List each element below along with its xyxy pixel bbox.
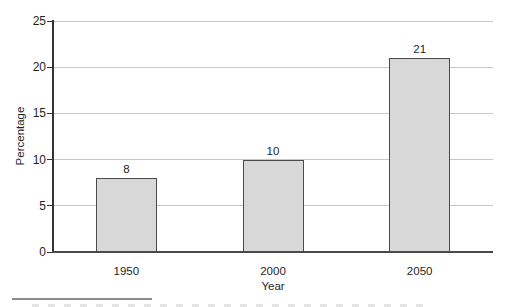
x-axis-title: Year	[243, 280, 303, 292]
x-category-label-1950: 1950	[96, 265, 156, 277]
y-tick-label-5: 5	[16, 200, 46, 212]
bar-1950	[96, 178, 157, 253]
bar-value-label-1950: 8	[96, 163, 156, 176]
x-axis-baseline	[52, 251, 493, 253]
y-axis-line	[52, 20, 54, 252]
bar-value-label-2050: 21	[390, 43, 450, 56]
y-tick-label-20: 20	[16, 61, 46, 73]
bar-value-label-2000: 10	[243, 145, 303, 158]
y-tick-label-0: 0	[16, 246, 46, 258]
figure-canvas: 051015202581950102000212050 Percentage Y…	[0, 0, 507, 307]
y-tick-label-25: 25	[16, 15, 46, 27]
footnote-rule	[12, 298, 152, 300]
x-category-label-2050: 2050	[390, 265, 450, 277]
y-axis-title: Percentage	[14, 107, 26, 166]
plot-area: 051015202581950102000212050	[0, 0, 507, 307]
bar-2050	[389, 58, 450, 253]
bar-2000	[243, 160, 304, 253]
x-category-label-2000: 2000	[243, 265, 303, 277]
gridline-y-25	[53, 21, 493, 22]
